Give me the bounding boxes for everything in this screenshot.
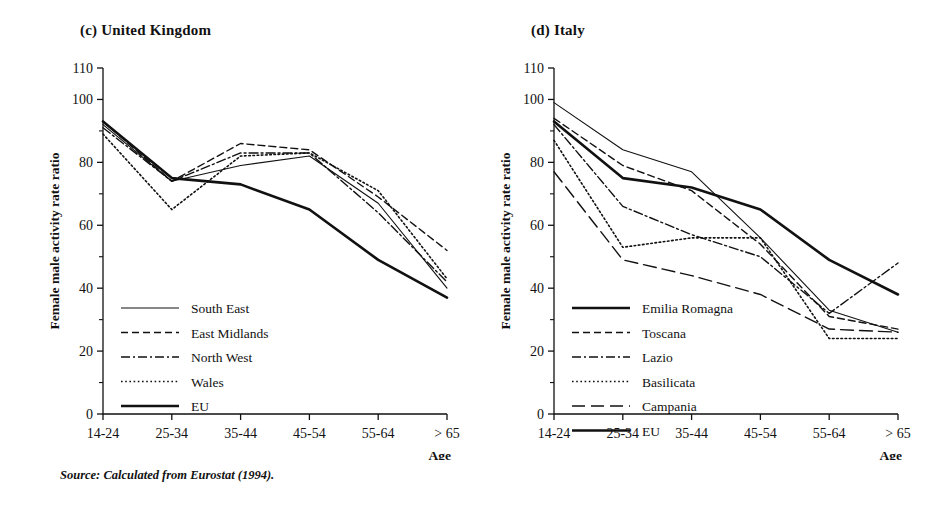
x-tick-label: 25-34: [155, 426, 188, 441]
x-tick-label: 14-24: [87, 426, 120, 441]
legend-label: EU: [642, 424, 660, 439]
series-line: [103, 125, 447, 289]
legend-label: Toscana: [642, 326, 686, 341]
y-tick-label: 80: [530, 155, 544, 170]
legend-label: South East: [191, 301, 249, 316]
series-line: [554, 118, 898, 329]
series-line: [103, 128, 447, 282]
x-tick-label: 35-44: [675, 426, 708, 441]
y-tick-label: 20: [530, 344, 544, 359]
x-tick-label: > 65: [885, 426, 910, 441]
legend-label: Basilicata: [642, 375, 695, 390]
x-tick-label: 55-64: [813, 426, 846, 441]
y-tick-label: 110: [524, 61, 544, 76]
chart-panel-italy: (d) Italy 02040608010011014-2425-3435-44…: [470, 0, 927, 460]
y-axis-label: Female male activity rate ratio: [498, 152, 513, 329]
x-axis-label: Age: [880, 448, 903, 460]
y-tick-label: 40: [79, 281, 93, 296]
axis-frame: [103, 68, 447, 414]
chart-svg-it: 02040608010011014-2425-3435-4445-5455-64…: [470, 0, 927, 460]
x-tick-label: 55-64: [362, 426, 395, 441]
legend-label: Wales: [191, 375, 224, 390]
series-line: [554, 121, 898, 294]
x-tick-label: > 65: [434, 426, 459, 441]
y-tick-label: 110: [73, 61, 93, 76]
axis-frame: [554, 68, 898, 414]
chart-panel-united-kingdom: (c) United Kingdom 02040608010011014-242…: [0, 0, 470, 460]
x-tick-label: 35-44: [224, 426, 257, 441]
y-tick-label: 0: [537, 407, 544, 422]
x-tick-label: 45-54: [744, 426, 777, 441]
legend-label: North West: [191, 350, 253, 365]
x-tick-label: 14-24: [538, 426, 571, 441]
legend-label: Campania: [642, 399, 697, 414]
series-line: [103, 121, 447, 250]
y-axis-label: Female male activity rate ratio: [47, 152, 62, 329]
y-tick-label: 60: [530, 218, 544, 233]
y-tick-label: 80: [79, 155, 93, 170]
legend-label: Lazio: [642, 350, 673, 365]
y-tick-label: 100: [72, 92, 93, 107]
x-tick-label: 45-54: [293, 426, 326, 441]
y-tick-label: 40: [530, 281, 544, 296]
y-tick-label: 60: [79, 218, 93, 233]
source-note: Source: Calculated from Eurostat (1994).: [60, 468, 274, 483]
legend-label: EU: [191, 399, 209, 414]
legend-label: East Midlands: [191, 326, 269, 341]
chart-svg-uk: 02040608010011014-2425-3435-4445-5455-64…: [0, 0, 470, 460]
y-tick-label: 0: [86, 407, 93, 422]
series-line: [103, 134, 447, 279]
x-axis-label: Age: [429, 448, 452, 460]
legend-label: Emilia Romagna: [642, 301, 733, 316]
y-tick-label: 20: [79, 344, 93, 359]
y-tick-label: 100: [523, 92, 544, 107]
x-tick-label: 25-34: [606, 426, 639, 441]
